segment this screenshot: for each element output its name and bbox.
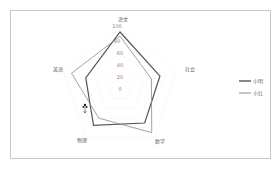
legend-item-xiaoming[interactable]: 小明 [239, 78, 263, 85]
legend-label-xiaohong: 小红 [253, 90, 263, 97]
tick-20: 20 [117, 74, 123, 80]
grid-ring [63, 29, 177, 138]
legend: 小明 小红 [239, 78, 263, 97]
legend-label-xiaoming: 小明 [253, 78, 263, 85]
tick-60: 60 [117, 50, 123, 56]
axis-label-chinese: 语文 [118, 16, 128, 23]
axis-label-math: 数学 [155, 138, 165, 145]
legend-item-xiaohong[interactable]: 小红 [239, 90, 263, 97]
tick-40: 40 [117, 62, 123, 68]
axis-label-physics: 物理 [77, 137, 87, 144]
radar-series [71, 32, 159, 133]
tick-0: 0 [118, 86, 121, 92]
radar-grid [63, 29, 177, 138]
radar-chart: 0 20 40 60 80 100 语文 社会 数学 物理 英语 小明 小红 [0, 0, 276, 173]
axis-label-society: 社会 [185, 66, 195, 73]
axis-label-english: 英语 [53, 66, 63, 73]
tick-100: 100 [112, 23, 122, 29]
move-cursor-icon [82, 102, 90, 114]
